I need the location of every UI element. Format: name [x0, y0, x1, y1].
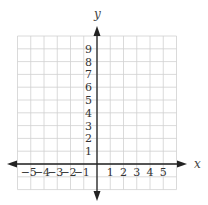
y-tick-label: 5: [85, 94, 92, 107]
x-axis-right-arrow-icon: [177, 161, 187, 168]
x-tick-label: 2: [120, 166, 127, 179]
x-tick-label: 5: [160, 166, 167, 179]
y-tick-label: 6: [85, 81, 92, 94]
x-tick-label: 3: [133, 166, 140, 179]
y-axis-up-arrow-icon: [94, 26, 101, 36]
x-tick-label: 1: [107, 166, 114, 179]
y-tick-label: 4: [85, 107, 92, 120]
x-axis-left-arrow-icon: [7, 161, 17, 168]
x-axis-label: x: [194, 157, 201, 171]
y-tick-label: 8: [85, 56, 92, 69]
y-tick-labels: 123456789: [85, 43, 92, 158]
y-tick-label: 2: [85, 132, 92, 145]
y-tick-label: 1: [85, 145, 92, 158]
y-axis-label: y: [93, 7, 101, 21]
coordinate-plane: x y −5−4−3−2−112345 123456789: [0, 0, 208, 205]
y-axis-down-arrow-icon: [94, 191, 101, 201]
x-tick-label: −1: [74, 166, 90, 179]
y-tick-label: 3: [85, 120, 92, 133]
x-tick-label: 4: [147, 166, 154, 179]
y-tick-label: 9: [85, 43, 92, 56]
y-tick-label: 7: [85, 68, 92, 81]
